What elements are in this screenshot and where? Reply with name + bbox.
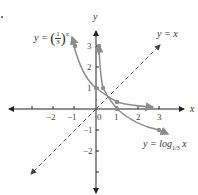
logarithm-label: y = log1/3 x [143,139,187,151]
exponential-label: y = (13)x [34,31,69,46]
x-tick-label: 3 [157,113,162,122]
y-tick-label: 3 [87,42,92,51]
exp-power: x [66,30,69,38]
identity-label: y = x [157,29,178,39]
exp-prefix: y = [34,32,50,43]
x-axis-label: x [190,104,194,114]
x-tick-label: 2 [136,113,141,122]
x-tick-label: −2 [46,113,56,122]
y-tick-label: −2 [83,147,93,156]
log-base: 1/3 [172,145,180,151]
x-tick-label: 0 [97,113,102,122]
log-prefix: y = log [143,138,172,149]
y-axis-label: y [93,12,97,22]
exponential-curve [72,39,153,107]
stray-mark [1,16,3,18]
identity-line-lower [31,109,96,174]
y-tick-label: 2 [87,63,92,72]
y-tick-label: 1 [87,84,92,93]
x-tick-label: −1 [67,113,77,122]
x-tick-label: 1 [114,113,119,122]
log-arg: x [180,138,187,149]
y-tick-label: −1 [83,126,93,135]
identity-line-upper [96,45,160,109]
